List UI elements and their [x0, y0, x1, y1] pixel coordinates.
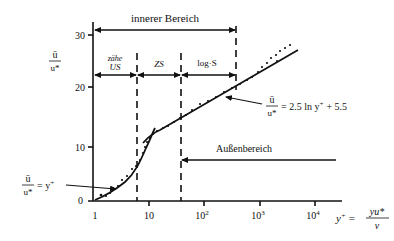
- svg-text:innerer Bereich: innerer Bereich: [131, 12, 200, 24]
- y-tick-0: 0: [78, 195, 83, 206]
- svg-text:ū: ū: [26, 173, 31, 184]
- svg-text:ū: ū: [53, 49, 58, 60]
- svg-text:u*: u*: [24, 187, 34, 197]
- x-tick-labels: 1 10 102 103 104: [93, 209, 321, 221]
- linear-law-annotation: ū u* = y+: [22, 173, 116, 197]
- svg-text:yu*: yu*: [369, 206, 384, 217]
- axes: [88, 22, 342, 206]
- x-tick-10: 10: [144, 210, 154, 221]
- log-layer-label: log·S: [197, 58, 217, 68]
- svg-text:Außenbereich: Außenbereich: [216, 143, 272, 154]
- svg-text:ν: ν: [375, 220, 380, 231]
- y-tick-30: 30: [75, 30, 85, 41]
- svg-text:= y+: = y+: [37, 179, 54, 191]
- measurement-points: [100, 44, 291, 197]
- svg-text:u*: u*: [51, 63, 61, 73]
- x-tick-10000: 104: [306, 209, 320, 221]
- x-tick-1000: 103: [251, 209, 265, 221]
- viscous-sublayer-label: US: [110, 62, 121, 72]
- y-tick-10: 10: [75, 142, 85, 153]
- svg-text:u*: u*: [268, 108, 278, 118]
- svg-text:ū: ū: [270, 94, 275, 105]
- region-dividers: [137, 26, 236, 201]
- log-law-line: [143, 50, 298, 143]
- buffer-layer-label: ZS: [154, 59, 164, 69]
- svg-text:y+=: y+=: [335, 212, 355, 224]
- chart: 0 10 20 30 1 10 102 103 104 ū u* y+= yu*…: [0, 0, 394, 241]
- x-tick-1: 1: [93, 210, 98, 221]
- y-axis-label: ū u*: [49, 49, 61, 73]
- y-tick-20: 20: [75, 82, 85, 93]
- log-law-annotation: ū u* = 2.5 ln y++ 5.5: [226, 94, 347, 118]
- y-tick-labels: 0 10 20 30: [75, 30, 85, 206]
- svg-text:= 2.5 ln y++ 5.5: = 2.5 ln y++ 5.5: [281, 100, 347, 112]
- inner-region-bracket: innerer Bereich: [95, 12, 235, 30]
- x-tick-100: 102: [195, 209, 209, 221]
- outer-region-bracket: Außenbereich: [182, 143, 336, 160]
- x-axis-label: y+= yu* ν: [335, 206, 389, 231]
